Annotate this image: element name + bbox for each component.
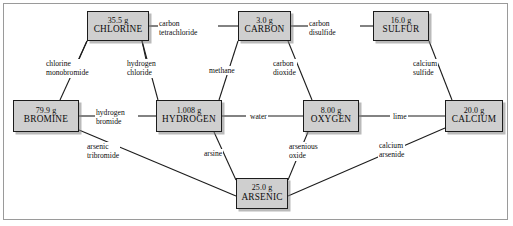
edge-label-e9: water (249, 112, 268, 121)
edge-label-e8: hydrogenbromide (95, 108, 126, 127)
connector-line (288, 128, 445, 196)
edge-label-e10: lime (392, 112, 408, 121)
element-node-calcium[interactable]: 20.0 gCALCIUM (445, 100, 503, 132)
element-node-arsenic[interactable]: 25.0 gARSENIC (236, 178, 288, 209)
element-name: BROMINE (24, 115, 68, 125)
edge-label-e6: carbondioxide (272, 59, 297, 78)
element-name: OXYGEN (311, 115, 351, 125)
edge-label-e11: arsenictribromide (86, 142, 120, 161)
element-node-oxygen[interactable]: 8.00 gOXYGEN (303, 100, 359, 132)
diagram-canvas: 35.5 gCHLORINE3.0 gCARBON16.0 gSULFUR79.… (0, 0, 513, 226)
edge-label-e5: methane (208, 66, 236, 75)
element-node-hydrogen[interactable]: 1.008 gHYDROGEN (156, 100, 222, 132)
element-name: CALCIUM (452, 115, 496, 125)
edge-label-e2: carbondisulfide (308, 19, 337, 38)
element-name: HYDROGEN (162, 115, 216, 125)
element-node-chlorine[interactable]: 35.5 gCHLORINE (87, 11, 149, 41)
edge-label-e13: arseniousoxide (288, 142, 319, 161)
edge-label-e3: chlorinemonobromide (45, 59, 90, 78)
element-name: ARSENIC (241, 193, 282, 203)
element-node-carbon[interactable]: 3.0 gCARBON (238, 11, 291, 41)
edge-label-e7: calciumsulfide (412, 59, 438, 78)
edge-label-e12: arsine (203, 149, 223, 158)
edge-label-e4: hydrogenchloride (126, 59, 157, 78)
element-name: SULFUR (383, 25, 420, 35)
edge-label-e14: calciumarsenide (378, 141, 405, 160)
element-name: CHLORINE (94, 25, 143, 35)
edge-label-e1: carbontetrachloride (158, 19, 198, 38)
connector-line (79, 130, 236, 196)
element-node-bromine[interactable]: 79.9 gBROMINE (13, 100, 79, 132)
element-name: CARBON (245, 25, 285, 35)
element-node-sulfur[interactable]: 16.0 gSULFUR (373, 11, 429, 41)
